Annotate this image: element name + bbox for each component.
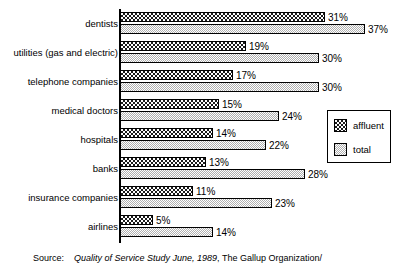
bar-value-label: 24% [282,112,302,122]
category-label: telephone companies [0,77,118,87]
source-note: Source:Quality of Service Study June, 19… [33,252,400,264]
bar-affluent [120,70,233,80]
bar-affluent [120,12,325,22]
bar-value-label: 19% [249,42,269,52]
bar-affluent [120,215,153,225]
bar-value-label: 11% [196,187,215,197]
bar-value-label: 30% [322,54,342,64]
bar-total [120,111,279,121]
bar-value-label: 30% [322,83,342,93]
bar-value-label: 17% [236,71,256,81]
legend-item-total: total [334,143,371,156]
bar-total [120,169,305,179]
bar-value-label: 28% [308,170,328,180]
bar-value-label: 13% [209,158,229,168]
legend-label-affluent: affluent [353,121,384,131]
bar-value-label: 14% [216,129,236,139]
bar-total [120,24,365,34]
category-label: banks [0,164,118,174]
bar-value-label: 14% [216,228,236,238]
bar-total [120,227,213,237]
bar-affluent [120,99,219,109]
bar-affluent [120,186,193,196]
legend-swatch-total-icon [334,143,347,156]
category-label: medical doctors [0,106,118,116]
source-label: Source: [33,252,74,264]
bar-affluent [120,128,213,138]
bar-value-label: 22% [269,141,289,151]
category-label: hospitals [0,135,118,145]
source-publisher: , The Gallup Organization/ [217,253,322,263]
legend-swatch-affluent-icon [334,119,347,132]
source-title: Quality of Service Study June, 1989 [74,253,217,263]
bar-total [120,198,272,208]
bar-value-label: 15% [222,100,242,110]
bar-value-label: 31% [328,13,348,23]
bar-affluent [120,41,246,51]
category-label: dentists [0,19,118,29]
bar-value-label: 23% [275,199,295,209]
category-label: utilities (gas and electric) [0,48,118,58]
legend-label-total: total [353,145,371,155]
bar-total [120,82,319,92]
chart-legend: affluent total [327,110,391,163]
bar-value-label: 37% [368,25,388,35]
category-label: insurance companies [0,193,118,203]
legend-item-affluent: affluent [334,119,384,132]
bar-chart: dentists31%37%utilities (gas and electri… [0,0,400,248]
bar-total [120,140,266,150]
bar-total [120,53,319,63]
category-label: airlines [0,222,118,232]
bar-value-label: 5% [156,216,170,226]
bar-affluent [120,157,206,167]
